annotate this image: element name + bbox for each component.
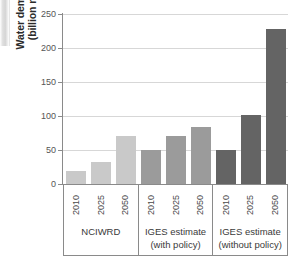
bar-chart: Water demand (billion m³) 05010015020025… — [0, 0, 297, 258]
x-axis-group-label: IGES estimate(without policy) — [213, 226, 287, 251]
category-group: 201020252050IGES estimate(with policy) — [139, 185, 214, 255]
y-axis-tick-label: 200 — [30, 44, 56, 53]
x-axis-group-label-line: (without policy) — [213, 239, 287, 252]
year-cell: 2010 — [213, 185, 238, 225]
y-axis-tick — [58, 150, 63, 151]
x-axis-group-label: IGES estimate(with policy) — [139, 226, 213, 251]
bar — [191, 127, 211, 184]
bar — [216, 150, 236, 184]
x-axis-group-label: NCIWRD — [64, 226, 138, 239]
year-label-row: 201020252050 — [213, 185, 287, 225]
x-axis-year-label: 2050 — [196, 195, 205, 215]
year-cell: 2025 — [238, 185, 263, 225]
bar — [241, 115, 261, 184]
year-label-row: 201020252050 — [64, 185, 138, 225]
x-axis-year-label: 2050 — [270, 195, 279, 215]
year-cell: 2025 — [163, 185, 188, 225]
x-axis-year-label: 2010 — [72, 195, 81, 215]
y-axis-tick-label: 250 — [30, 10, 56, 19]
bar — [91, 162, 111, 184]
y-axis-tick-label: 50 — [30, 146, 56, 155]
bar — [116, 136, 136, 184]
x-axis-group-label-line: NCIWRD — [64, 226, 138, 239]
x-axis-year-label: 2025 — [96, 195, 105, 215]
year-cell: 2050 — [262, 185, 287, 225]
year-cell: 2010 — [64, 185, 89, 225]
bars-container — [63, 14, 288, 184]
y-axis-tick — [58, 48, 63, 49]
y-axis-tick — [58, 82, 63, 83]
y-axis-tick-label: 150 — [30, 78, 56, 87]
year-label-row: 201020252050 — [139, 185, 213, 225]
x-axis-year-label: 2025 — [171, 195, 180, 215]
y-axis-tick-label: 0 — [30, 180, 56, 189]
x-axis-year-label: 2050 — [121, 195, 130, 215]
y-axis-tick-label: 100 — [30, 112, 56, 121]
y-axis-tick — [58, 184, 63, 185]
x-axis-year-label: 2010 — [221, 195, 230, 215]
bar — [166, 136, 186, 184]
bar — [66, 171, 86, 184]
category-group: 201020252050IGES estimate(without policy… — [213, 185, 287, 255]
year-cell: 2010 — [139, 185, 164, 225]
year-cell: 2050 — [113, 185, 138, 225]
year-cell: 2025 — [89, 185, 114, 225]
bar — [141, 150, 161, 184]
y-axis-tick — [58, 116, 63, 117]
x-axis-group-label-line: IGES estimate — [139, 226, 213, 239]
x-axis-group-label-line: IGES estimate — [213, 226, 287, 239]
y-axis-tick-labels: 050100150200250 — [26, 0, 56, 258]
y-axis-tick — [58, 14, 63, 15]
y-axis-title-line-1: Water demand — [14, 0, 26, 62]
x-axis-year-label: 2025 — [246, 195, 255, 215]
category-group: 201020252050NCIWRD — [64, 185, 139, 255]
bar — [266, 29, 286, 184]
year-cell: 2050 — [188, 185, 213, 225]
category-label-box: 201020252050NCIWRD201020252050IGES estim… — [63, 185, 288, 256]
x-axis-group-label-line: (with policy) — [139, 239, 213, 252]
x-axis-year-label: 2010 — [146, 195, 155, 215]
